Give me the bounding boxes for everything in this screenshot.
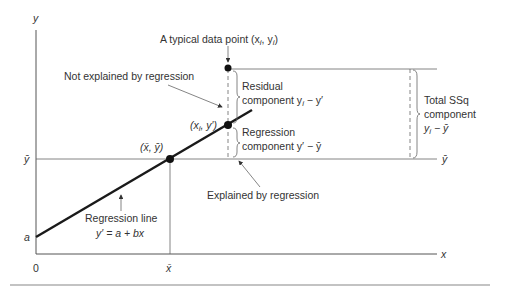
regression-component-label-1: Regression	[242, 126, 295, 138]
data-point	[225, 65, 232, 72]
regression-brace	[233, 128, 240, 157]
residual-label-2: component yi − y′	[242, 94, 323, 108]
total-brace	[413, 70, 420, 158]
explained-arrow	[239, 161, 260, 187]
residual-brace	[233, 71, 240, 123]
typical-point-label: A typical data point (xi, yi)	[160, 33, 278, 47]
y-axis-label: y	[32, 12, 39, 24]
regression-equation: y′ = a + bx	[95, 227, 145, 239]
regression-diagram: y x 0 a ȳ ȳ x̄ A typical data point (xi,…	[0, 0, 505, 289]
not-explained-label: Not explained by regression	[64, 70, 194, 82]
origin-label: 0	[33, 262, 39, 274]
regression-line-label: Regression line	[85, 212, 158, 224]
x-axis-label: x	[440, 248, 447, 260]
residual-label-1: Residual	[242, 80, 283, 92]
not-explained-arrow	[168, 85, 222, 107]
total-label-1: Total SSq	[424, 94, 469, 106]
regression-component-label-2: component y′ − ȳ	[242, 140, 322, 152]
fitted-point-label: (xi, y′)	[190, 119, 217, 133]
xbar-label: x̄	[165, 262, 172, 274]
mean-point-label: (x̄, ȳ)	[140, 141, 163, 153]
total-label-3: yi − ȳ	[423, 122, 449, 136]
fitted-point	[224, 121, 232, 129]
mean-point	[166, 155, 174, 163]
total-label-2: component	[424, 108, 476, 120]
explained-label: Explained by regression	[207, 189, 319, 201]
ybar-left-label: ȳ	[23, 153, 30, 165]
intercept-label: a	[24, 231, 30, 243]
ybar-right-label: ȳ	[441, 153, 448, 165]
